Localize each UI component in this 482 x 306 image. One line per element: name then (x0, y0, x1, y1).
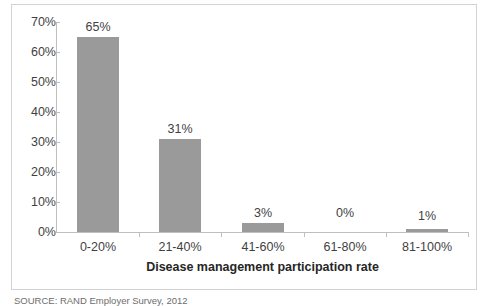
y-tick-label: 50% (10, 76, 56, 88)
y-tick-mark (56, 172, 60, 173)
y-tick-label: 10% (10, 196, 56, 208)
source-note: SOURCE: RAND Employer Survey, 2012 (14, 295, 188, 306)
y-tick-label: 70% (10, 16, 56, 28)
y-tick-mark (56, 22, 60, 23)
y-tick-mark (56, 82, 60, 83)
bar-value-label: 0% (324, 207, 366, 220)
bar-21-40[interactable] (159, 139, 201, 232)
y-tick-label: 60% (10, 46, 56, 58)
y-tick-label: 20% (10, 166, 56, 178)
y-tick-label: 0% (10, 226, 56, 238)
bar-value-label: 3% (242, 207, 284, 220)
x-axis-line (56, 232, 469, 233)
x-tick-mark (221, 233, 222, 237)
bar-81-100[interactable] (406, 229, 448, 232)
x-category-label: 21-40% (139, 240, 221, 254)
x-tick-mark (386, 233, 387, 237)
y-tick-label: 40% (10, 106, 56, 118)
y-tick-mark (56, 52, 60, 53)
x-tick-mark (468, 233, 469, 237)
bar-0-20[interactable] (77, 37, 119, 232)
x-tick-mark (139, 233, 140, 237)
y-tick-mark (56, 202, 60, 203)
y-tick-mark (56, 142, 60, 143)
x-tick-mark (304, 233, 305, 237)
x-axis-title: Disease management participation rate (56, 260, 469, 274)
y-tick-mark (56, 232, 60, 233)
x-category-label: 0-20% (57, 240, 139, 254)
y-tick-mark (56, 112, 60, 113)
y-tick-label: 30% (10, 136, 56, 148)
bar-value-label: 31% (159, 123, 201, 136)
x-category-label: 61-80% (304, 240, 386, 254)
x-category-label: 81-100% (386, 240, 468, 254)
x-category-label: 41-60% (222, 240, 304, 254)
bar-value-label: 1% (406, 210, 448, 223)
bar-value-label: 65% (77, 21, 119, 34)
bar-41-60[interactable] (242, 223, 284, 232)
